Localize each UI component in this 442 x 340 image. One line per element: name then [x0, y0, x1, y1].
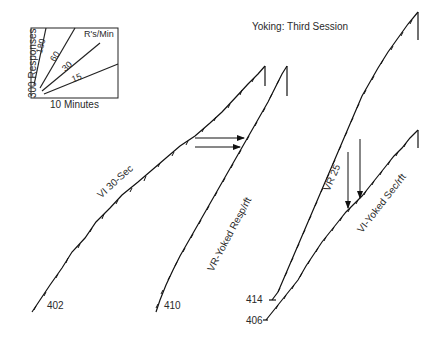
curve-402-id: 402: [47, 300, 64, 311]
cumulative-record-figure: [0, 0, 442, 340]
arrows-horizontal: [195, 138, 244, 147]
curve-406: [263, 130, 418, 320]
arrows-vertical: [348, 139, 360, 208]
figure-title: Yoking: Third Session: [252, 21, 348, 32]
legend-units-label: R's/Min: [84, 29, 114, 39]
curve-406-id: 406: [246, 315, 263, 326]
legend-x-label: 10 Minutes: [50, 99, 99, 110]
curve-410: [156, 66, 287, 312]
curve-414-id: 414: [246, 294, 263, 305]
curve-414: [269, 12, 418, 300]
curve-410-id: 410: [164, 300, 181, 311]
